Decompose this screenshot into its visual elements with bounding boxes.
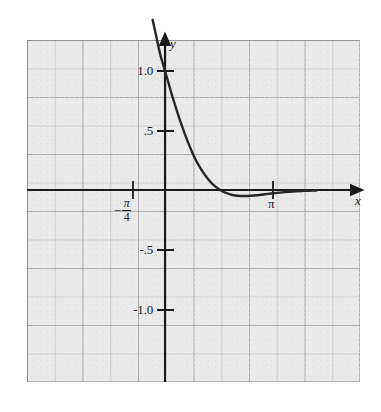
- x-tick-label-pi: π: [268, 196, 274, 212]
- graph-figure: y x 1.0 .5 -.5 -1.0 − π 4 π: [0, 0, 381, 412]
- x-tick-label-neg-pi-over-4: − π 4: [114, 197, 131, 223]
- data-curve: [153, 20, 317, 196]
- x-axis-label: x: [355, 193, 361, 209]
- fraction-stack: π 4: [122, 197, 131, 223]
- y-tick-label-1-0: 1.0: [99, 63, 153, 79]
- y-tick-label-neg-0-5: -.5: [99, 242, 153, 258]
- y-tick-label-neg-1-0: -1.0: [99, 302, 153, 318]
- fraction-denominator: 4: [123, 211, 131, 223]
- fraction-minus-sign: −: [114, 204, 121, 217]
- y-tick-label-0-5: .5: [99, 123, 153, 139]
- y-axis-label: y: [170, 36, 176, 52]
- fraction-numerator: π: [123, 197, 131, 209]
- plot-canvas: [0, 0, 381, 412]
